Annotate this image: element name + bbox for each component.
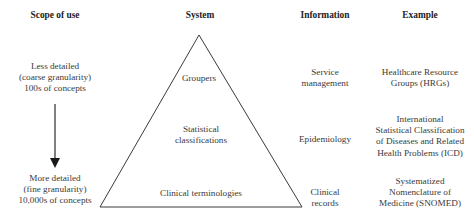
example-line: Statistical Classification	[366, 125, 474, 136]
header-system: System	[170, 10, 230, 21]
example-line: Health Problems (ICD)	[366, 148, 474, 159]
example-icd: International Statistical Classification…	[366, 114, 474, 159]
system-clinical-terminologies: Clinical terminologies	[151, 188, 251, 199]
scope-top-line: (coarse granularity)	[8, 72, 102, 83]
scope-top-label: Less detailed (coarse granularity) 100s …	[8, 61, 102, 95]
header-information: Information	[290, 10, 360, 21]
information-line: Epidemiology	[290, 134, 360, 145]
example-snomed: Systematized Nomenclature of Medicine (S…	[370, 176, 470, 210]
system-triangle	[100, 35, 302, 207]
example-line: of Diseases and Related	[366, 136, 474, 147]
information-line: Service	[290, 67, 360, 78]
granularity-arrow-head-icon	[50, 158, 60, 168]
system-line: Statistical	[156, 124, 246, 135]
scope-bottom-line: More detailed	[8, 173, 102, 184]
information-line: management	[290, 78, 360, 89]
header-scope-of-use: Scope of use	[14, 10, 96, 21]
scope-bottom-line: 10,000s of concepts	[8, 195, 102, 206]
example-line: Nomenclature of	[370, 187, 470, 198]
scope-bottom-label: More detailed (fine granularity) 10,000s…	[8, 173, 102, 207]
scope-top-line: Less detailed	[8, 61, 102, 72]
scope-bottom-line: (fine granularity)	[8, 184, 102, 195]
system-line: classifications	[156, 135, 246, 146]
system-line: Groupers	[164, 73, 234, 84]
example-line: Systematized	[370, 176, 470, 187]
example-line: Healthcare Resource	[368, 67, 472, 78]
system-groupers: Groupers	[164, 73, 234, 84]
example-line: International	[366, 114, 474, 125]
header-example: Example	[375, 10, 465, 21]
example-hrgs: Healthcare Resource Groups (HRGs)	[368, 67, 472, 89]
system-line: Clinical terminologies	[151, 188, 251, 199]
information-line: records	[290, 198, 360, 209]
information-epidemiology: Epidemiology	[290, 134, 360, 145]
system-statistical-classifications: Statistical classifications	[156, 124, 246, 146]
scope-top-line: 100s of concepts	[8, 83, 102, 94]
information-line: Clinical	[290, 187, 360, 198]
information-clinical-records: Clinical records	[290, 187, 360, 209]
example-line: Medicine (SNOMED)	[370, 198, 470, 209]
example-line: Groups (HRGs)	[368, 78, 472, 89]
information-service-management: Service management	[290, 67, 360, 89]
